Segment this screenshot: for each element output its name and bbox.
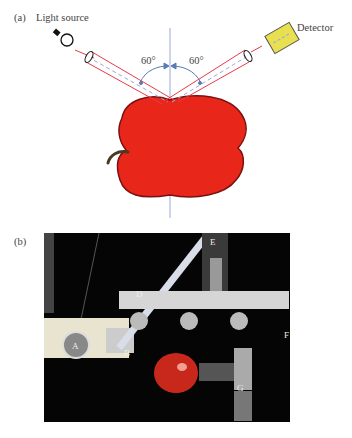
photo-label-g: G <box>237 383 244 393</box>
light-bulb-icon <box>53 29 73 46</box>
apple-icon <box>108 96 246 197</box>
photo-label-d: D <box>136 289 143 299</box>
detector-icon <box>265 22 299 53</box>
photo-label-a: A <box>72 341 79 351</box>
photo-label-b: B <box>124 348 130 358</box>
lens-left-icon <box>83 50 94 63</box>
panel-b-label: (b) <box>14 236 26 247</box>
photo-label-f: F <box>284 330 289 340</box>
reflection-diagram <box>0 0 352 225</box>
apparatus-photo: A B D E F G <box>44 233 290 422</box>
photo-label-e: E <box>210 237 216 247</box>
